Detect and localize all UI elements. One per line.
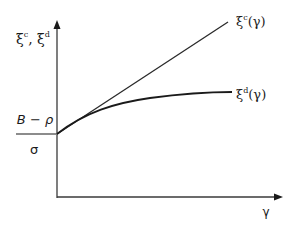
y-axis-arrow-icon — [54, 20, 61, 29]
chart: ξc, ξd B − ρ σ ξc(γ) ξd(γ) γ — [0, 0, 294, 230]
intercept-denominator: σ — [30, 142, 38, 157]
intercept-numerator: B − ρ — [17, 112, 54, 127]
x-axis-label: γ — [262, 205, 269, 219]
series-xi-c-label: ξc(γ) — [236, 13, 266, 29]
series-xi-d-curve — [57, 92, 232, 134]
x-axis-arrow-icon — [274, 194, 283, 201]
y-axis-label: ξc, ξd — [16, 30, 50, 47]
series-xi-d-label: ξd(γ) — [236, 86, 266, 102]
